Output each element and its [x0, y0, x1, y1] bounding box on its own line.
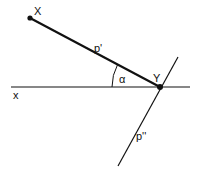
line-p-double-prime [118, 57, 178, 166]
angle-alpha-label: α [119, 73, 126, 85]
point-x-dot [27, 15, 32, 20]
point-x-label: X [34, 5, 42, 17]
point-y-dot [157, 84, 163, 90]
angle-arc-alpha [112, 65, 118, 88]
line-p-double-prime-label: p'' [136, 130, 146, 142]
segment-p-prime-label: p' [94, 42, 102, 54]
geometry-diagram: X Y x p' α p'' [0, 0, 198, 175]
axis-x-label: x [13, 89, 19, 101]
point-y-label: Y [153, 72, 161, 84]
